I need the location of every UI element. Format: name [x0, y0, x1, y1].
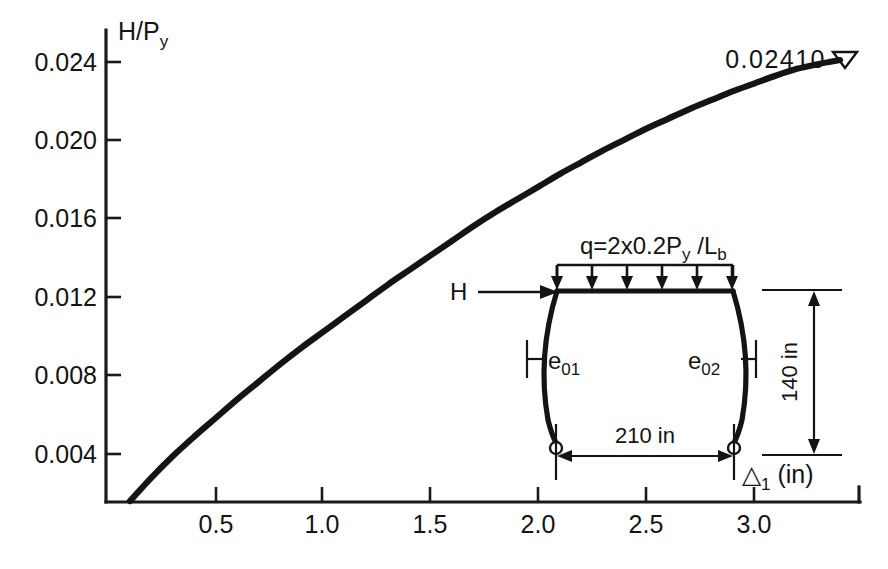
inset-frame-diagram: q=2x0.2Py /Lb H e01	[450, 232, 842, 480]
inset-e02-sub: 02	[701, 360, 720, 379]
y-axis-title-main: H/P	[118, 17, 160, 45]
x-axis-title-unit-text: (in)	[777, 460, 813, 488]
y-tick-label-1: 0.020	[34, 126, 97, 154]
inset-height-dimension-label: 140 in	[777, 342, 802, 402]
x-axis-title-sub: 1	[761, 475, 770, 494]
inset-span-dimension-label: 210 in	[615, 423, 675, 448]
y-tick-label-2: 0.016	[34, 204, 97, 232]
load-arrow-head-5	[691, 276, 703, 290]
inset-h-label: H	[450, 278, 467, 305]
y-ticks-group	[106, 62, 121, 454]
svg-text:H/Py: H/Py	[118, 17, 169, 51]
peak-value-label: 0.02410	[725, 45, 826, 73]
inset-e01-sub: 01	[561, 360, 580, 379]
horizontal-force-group: H	[450, 278, 558, 305]
chart-canvas: 0.024 0.020 0.016 0.012 0.008 0.004 H/Py…	[0, 0, 888, 569]
peak-annotation-group: 0.02410	[725, 45, 857, 73]
x-tick-labels-group: 0.5 1.0 1.5 2.0 2.5 3.0	[199, 510, 772, 538]
load-arrows-group	[551, 265, 738, 290]
inset-load-label-mid: /L	[691, 232, 718, 259]
y-axis-title: H/Py	[118, 17, 169, 51]
inset-e02-label: e02	[688, 347, 720, 379]
y-tick-label-5: 0.004	[34, 440, 97, 468]
inset-e02-base: e	[688, 347, 701, 374]
inset-load-label-prefix: q=2x0.2P	[580, 232, 682, 259]
load-arrow-head-6	[726, 276, 738, 290]
frame-right-column	[733, 291, 746, 443]
y-tick-label-4: 0.008	[34, 361, 97, 389]
inset-e01-base: e	[548, 347, 561, 374]
load-arrow-head-4	[656, 276, 668, 290]
y-tick-label-3: 0.012	[34, 283, 97, 311]
y-axis-title-sub: y	[160, 32, 169, 51]
x-tick-label-2: 1.5	[413, 510, 448, 538]
inset-load-label: q=2x0.2Py /Lb	[580, 232, 727, 264]
x-axis-title-unit	[770, 460, 777, 488]
delta-icon: △	[742, 460, 762, 488]
height-dimension-group: 140 in	[762, 290, 842, 455]
x-tick-label-4: 2.5	[629, 510, 664, 538]
x-ticks-group	[216, 487, 754, 502]
span-dimension-group: 210 in	[556, 423, 734, 480]
x-tick-label-3: 2.0	[521, 510, 556, 538]
inset-load-label-sub2: b	[717, 245, 726, 264]
load-arrow-head-2	[586, 276, 598, 290]
x-tick-label-5: 3.0	[737, 510, 772, 538]
y-tick-labels-group: 0.024 0.020 0.016 0.012 0.008 0.004	[34, 48, 97, 468]
imperfection-left-group: e01	[527, 340, 580, 379]
load-arrow-head-3	[621, 276, 633, 290]
axes-group	[106, 30, 860, 502]
height-arrow-head-bottom	[808, 439, 820, 454]
figure-root: 0.024 0.020 0.016 0.012 0.008 0.004 H/Py…	[0, 0, 888, 569]
height-arrow-head-top	[808, 291, 820, 306]
y-tick-label-0: 0.024	[34, 48, 97, 76]
load-arrow-head-1	[551, 276, 563, 290]
x-tick-label-1: 1.0	[305, 510, 340, 538]
inset-e01-label: e01	[548, 347, 580, 379]
x-tick-label-0: 0.5	[199, 510, 234, 538]
